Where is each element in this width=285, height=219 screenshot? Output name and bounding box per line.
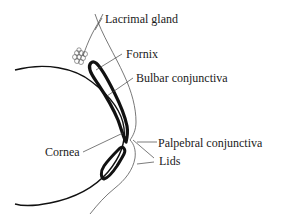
leader-lids-lower (137, 162, 154, 164)
eyeball-outline (15, 66, 124, 205)
label-fornix: Fornix (126, 48, 158, 61)
label-bulbar-conjunctiva: Bulbar conjunctiva (136, 72, 228, 85)
lower-conjunctiva-loop (101, 147, 124, 179)
lid-contour (90, 14, 136, 214)
label-cornea: Cornea (45, 146, 80, 159)
label-lacrimal-gland: Lacrimal gland (105, 13, 178, 26)
label-lids: Lids (159, 155, 180, 168)
label-palpebral-conjunctiva: Palpebral conjunctiva (158, 137, 262, 150)
leader-lids-upper (133, 140, 154, 158)
inner-line (83, 14, 103, 56)
eye-diagram (0, 0, 285, 219)
upper-conjunctiva-loop (89, 62, 127, 142)
